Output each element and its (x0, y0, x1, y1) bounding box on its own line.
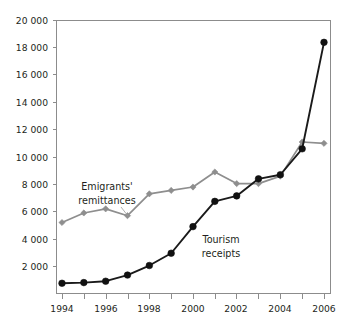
data-point[interactable] (299, 146, 306, 153)
y-tick-label-4000: 4 000 (22, 234, 48, 245)
data-point[interactable] (124, 272, 131, 279)
y-tick-label-14000: 14 000 (16, 97, 48, 108)
x-tick-label-1996: 1996 (94, 303, 118, 314)
tourism-receipts-label-line1: Tourism (201, 234, 239, 245)
x-tick-label-2004: 2004 (268, 303, 292, 314)
y-tick-label-16000: 16 000 (16, 69, 48, 80)
data-point[interactable] (233, 193, 240, 200)
x-tick-label-1998: 1998 (137, 303, 161, 314)
data-point[interactable] (277, 171, 284, 178)
data-point[interactable] (81, 279, 88, 286)
y-tick-label-6000: 6 000 (22, 206, 48, 217)
data-point[interactable] (321, 39, 328, 46)
line-chart: 20 000 18 000 16 000 14 000 12 000 10 00… (0, 0, 348, 331)
data-point[interactable] (255, 176, 262, 183)
y-tick-label-20000: 20 000 (16, 15, 48, 26)
emigrants-remittances-label-line1: Emigrants' (81, 181, 132, 192)
x-tick-label-2002: 2002 (224, 303, 247, 314)
data-point[interactable] (59, 280, 66, 287)
data-point[interactable] (212, 198, 219, 205)
y-tick-label-12000: 12 000 (16, 124, 48, 135)
tourism-receipts-label-line2: receipts (202, 248, 240, 259)
data-point[interactable] (102, 278, 109, 285)
y-tick-label-10000: 10 000 (16, 152, 48, 163)
data-point[interactable] (168, 250, 175, 257)
x-tick-label-2006: 2006 (312, 303, 336, 314)
y-tick-label-18000: 18 000 (16, 42, 48, 53)
data-point[interactable] (190, 223, 197, 230)
chart-background (0, 0, 348, 331)
y-tick-label-2000: 2 000 (22, 261, 48, 272)
x-tick-label-2000: 2000 (181, 303, 205, 314)
data-point[interactable] (146, 262, 153, 269)
y-tick-label-8000: 8 000 (22, 179, 48, 190)
chart-container: 20 000 18 000 16 000 14 000 12 000 10 00… (0, 0, 348, 331)
emigrants-remittances-label-line2: remittances (78, 195, 135, 206)
x-tick-label-1994: 1994 (50, 303, 74, 314)
